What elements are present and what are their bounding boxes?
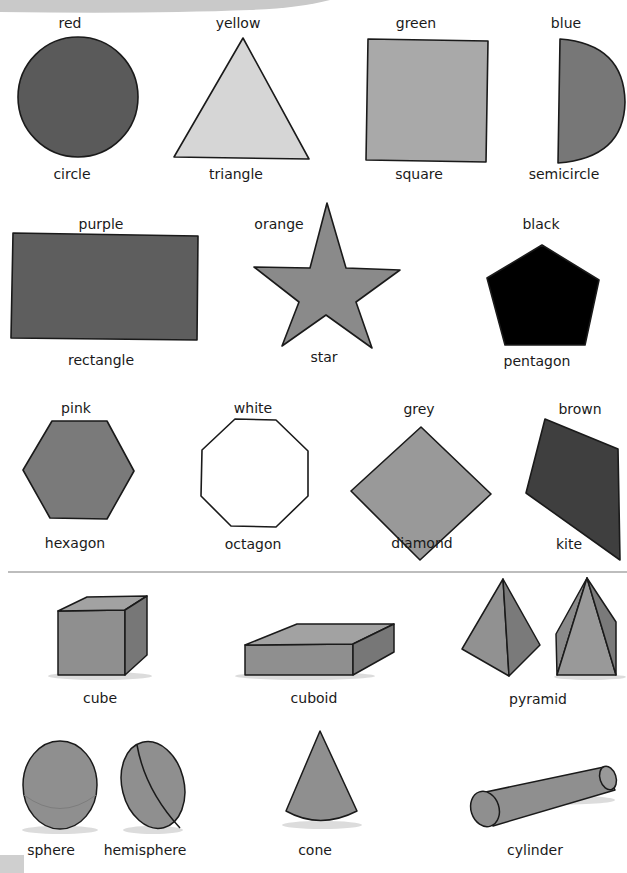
shape-label-hexagon: hexagon xyxy=(45,535,105,551)
shape-label-kite: kite xyxy=(556,536,582,552)
shape-label-diamond: diamond xyxy=(391,535,452,551)
page-corner-tab xyxy=(0,855,24,873)
solid-label-cube: cube xyxy=(83,690,117,706)
shape-label-triangle: triangle xyxy=(209,166,263,182)
shape-label-circle: circle xyxy=(53,166,90,182)
solid-label-hemisphere: hemisphere xyxy=(104,842,187,858)
cone-solid xyxy=(282,731,362,829)
solid-label-pyramid: pyramid xyxy=(509,691,567,707)
cuboid-solid xyxy=(235,624,394,680)
solid-label-cylinder: cylinder xyxy=(507,842,563,858)
colour-label-red: red xyxy=(59,15,82,31)
colour-label-pink: pink xyxy=(61,400,91,416)
solid-label-cuboid: cuboid xyxy=(291,690,338,706)
colour-label-yellow: yellow xyxy=(216,15,261,31)
shape-label-semicircle: semicircle xyxy=(529,166,600,182)
cylinder-solid xyxy=(466,764,619,830)
colour-label-purple: purple xyxy=(79,216,124,232)
colour-label-black: black xyxy=(522,216,559,232)
section-divider xyxy=(8,571,627,573)
shape-label-star: star xyxy=(310,349,337,365)
hemisphere-solid xyxy=(112,735,193,835)
colour-label-white: white xyxy=(234,400,272,416)
colour-label-green: green xyxy=(396,15,436,31)
colour-label-grey: grey xyxy=(403,401,434,417)
solid-label-sphere: sphere xyxy=(27,842,75,858)
pyramid-solid-square xyxy=(554,578,626,680)
shape-label-pentagon: pentagon xyxy=(504,353,571,369)
solids-artwork xyxy=(0,0,627,873)
shape-label-rectangle: rectangle xyxy=(68,352,134,368)
colour-label-orange: orange xyxy=(254,216,303,232)
solid-label-cone: cone xyxy=(298,842,332,858)
cube-solid xyxy=(48,596,152,680)
colour-label-blue: blue xyxy=(551,15,581,31)
shape-label-square: square xyxy=(395,166,443,182)
shape-label-octagon: octagon xyxy=(225,536,282,552)
sphere-solid xyxy=(22,741,98,834)
colour-label-brown: brown xyxy=(558,401,601,417)
pyramid-solid-triangular xyxy=(462,579,540,676)
